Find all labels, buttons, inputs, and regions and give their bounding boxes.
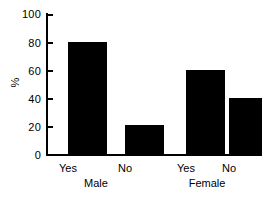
y-tick-label-60: 60: [1, 66, 41, 77]
y-tick-label-80: 80: [1, 38, 41, 49]
bar-chart: % 0 20 40 60 80 100 Yes No Yes No Male F…: [0, 0, 273, 198]
y-tick-label-40: 40: [1, 94, 41, 105]
bar-male-no: [125, 125, 164, 155]
bar-male-yes: [68, 42, 107, 155]
bar-female-no: [229, 98, 262, 155]
y-tick-label-100: 100: [1, 9, 41, 20]
category-label-female-yes: Yes: [166, 163, 206, 174]
plot-area: [47, 14, 262, 155]
group-label-female: Female: [187, 178, 227, 189]
group-label-male: Male: [76, 178, 116, 189]
bar-female-yes: [186, 70, 225, 155]
category-label-male-no: No: [105, 163, 145, 174]
y-tick-label-20: 20: [1, 122, 41, 133]
category-label-male-yes: Yes: [48, 163, 88, 174]
y-axis-title: %: [10, 78, 21, 88]
category-label-female-no: No: [209, 163, 249, 174]
y-tick-label-0: 0: [1, 150, 41, 161]
